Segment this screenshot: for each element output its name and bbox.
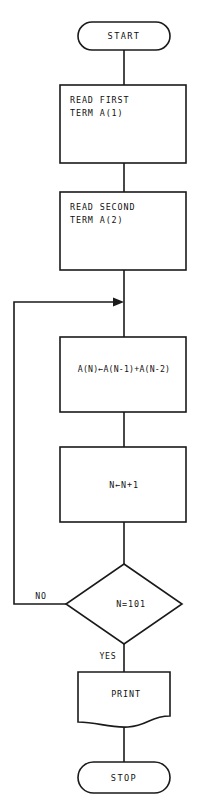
node-read-second-line2: TERM A(2): [70, 215, 123, 225]
flowchart-canvas: START READ FIRST TERM A(1) READ SECOND T…: [0, 0, 204, 805]
branch-label-no: NO: [35, 591, 46, 601]
node-decision-label: N=101: [116, 599, 146, 609]
arrowhead-loop-back-icon: [113, 298, 124, 307]
flowchart-diagram: START READ FIRST TERM A(1) READ SECOND T…: [0, 0, 204, 805]
node-increment-label: N←N+1: [109, 480, 139, 490]
node-read-second-line1: READ SECOND: [70, 202, 135, 212]
node-print: [78, 672, 170, 727]
branch-label-yes: YES: [99, 651, 116, 661]
node-read-first-line2: TERM A(1): [70, 108, 123, 118]
node-start-label: START: [108, 31, 141, 41]
node-print-label: PRINT: [111, 689, 141, 699]
node-compute-label: A(N)←A(N-1)+A(N-2): [78, 364, 170, 374]
node-compute: [60, 337, 186, 412]
node-read-first-line1: READ FIRST: [70, 95, 129, 105]
node-stop-label: STOP: [111, 773, 137, 783]
